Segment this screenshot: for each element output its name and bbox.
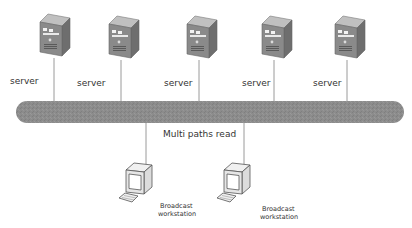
workstation-connectors — [146, 120, 244, 165]
server-label: server — [313, 78, 342, 88]
server-label: server — [10, 76, 39, 86]
server-icon — [109, 16, 139, 58]
server-node-1 — [40, 14, 70, 56]
workstation-icon — [217, 163, 250, 202]
server-node-5 — [335, 16, 365, 58]
workstation-node-2: Broadcast workstation — [217, 163, 298, 221]
workstation-label: Broadcast — [262, 205, 295, 213]
network-bus — [16, 101, 404, 123]
server-node-3 — [187, 16, 217, 58]
server-icon — [262, 16, 292, 58]
network-diagram: server server server server server Multi… — [0, 0, 412, 228]
server-icon — [40, 14, 70, 56]
workstation-label: workstation — [158, 210, 196, 218]
server-node-4 — [262, 16, 292, 58]
server-icon — [335, 16, 365, 58]
workstation-icon — [119, 163, 152, 202]
server-label: server — [242, 78, 271, 88]
server-icon — [187, 16, 217, 58]
bus-label: Multi paths read — [163, 129, 236, 139]
server-label: server — [164, 78, 193, 88]
server-node-2 — [109, 16, 139, 58]
server-label: server — [77, 78, 106, 88]
workstation-label: Broadcast — [160, 202, 193, 210]
workstation-label: workstation — [260, 213, 298, 221]
workstation-node-1: Broadcast workstation — [119, 163, 196, 218]
